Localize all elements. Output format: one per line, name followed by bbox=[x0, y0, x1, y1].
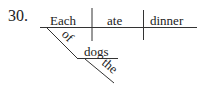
sentence-diagram: Each ate dinner of dogs the bbox=[0, 0, 207, 86]
word-object: dinner bbox=[150, 13, 184, 28]
word-verb: ate bbox=[107, 13, 122, 28]
word-prep-object: dogs bbox=[84, 44, 109, 59]
word-subject: Each bbox=[50, 13, 76, 28]
